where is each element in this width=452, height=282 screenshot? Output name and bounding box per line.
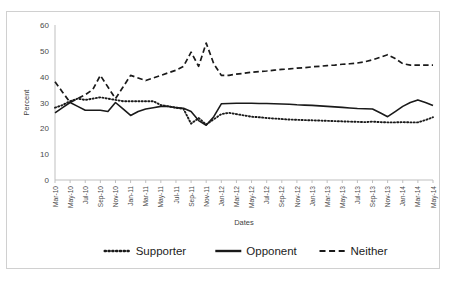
x-tick-label: Sep-10 (97, 186, 105, 208)
x-tick-label: Sep-13 (369, 186, 377, 208)
legend-label-supporter: Supporter (136, 245, 187, 257)
x-tick-label: Jul-12 (263, 186, 270, 204)
x-tick-label: May-10 (67, 186, 75, 208)
x-tick-label: Nov-10 (112, 186, 119, 208)
x-tick-label: Jul-10 (82, 186, 89, 204)
legend-label-neither: Neither (351, 245, 388, 257)
x-tick-label: Jan-14 (399, 186, 406, 206)
x-tick-label: May-14 (430, 186, 438, 208)
x-tick-label: Jul-11 (173, 186, 180, 204)
x-tick-label: Jan-13 (309, 186, 316, 206)
x-tick-label: Mar-12 (233, 186, 240, 207)
x-tick-label: Mar-11 (142, 186, 149, 207)
line-chart: 0102030405060PercentMar-10May-10Jul-10Se… (7, 12, 441, 270)
chart-container: 0102030405060PercentMar-10May-10Jul-10Se… (6, 11, 440, 269)
x-tick-label: Nov-11 (203, 186, 210, 207)
x-tick-label: Mar-13 (324, 186, 331, 207)
y-tick-label: 40 (40, 73, 49, 82)
x-tick-label: Jan-11 (127, 186, 134, 206)
x-tick-label: Jul-13 (354, 186, 361, 204)
x-tick-label: May-13 (339, 186, 347, 208)
series-line-neither (55, 43, 433, 102)
y-tick-label: 60 (40, 21, 49, 30)
legend-label-opponent: Opponent (246, 245, 297, 257)
y-axis-title: Percent (22, 89, 31, 116)
x-tick-label: Sep-12 (278, 186, 286, 208)
plot-area: 0102030405060PercentMar-10May-10Jul-10Se… (7, 12, 441, 270)
x-tick-label: Nov-12 (294, 186, 301, 208)
y-tick-label: 10 (40, 150, 49, 159)
series-line-opponent (55, 100, 433, 125)
y-tick-label: 20 (40, 124, 49, 133)
y-tick-label: 30 (40, 99, 49, 108)
x-tick-label: Jan-12 (218, 186, 225, 206)
x-tick-label: Sep-11 (188, 186, 196, 207)
x-tick-label: Nov-13 (384, 186, 391, 208)
y-tick-label: 50 (40, 47, 49, 56)
x-tick-label: Mar-10 (52, 186, 59, 207)
x-tick-label: May-12 (248, 186, 256, 208)
x-axis-title: Dates (234, 218, 254, 227)
x-tick-label: Mar-14 (414, 186, 421, 207)
y-tick-label: 0 (45, 176, 50, 185)
x-tick-label: May-11 (157, 186, 165, 208)
